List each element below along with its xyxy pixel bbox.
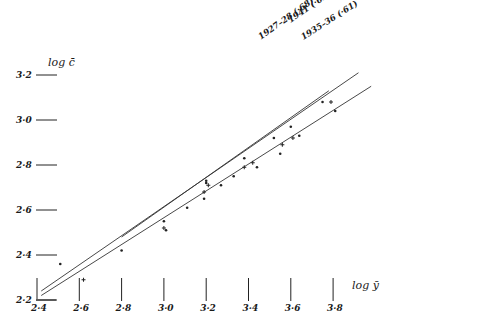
data-point — [205, 182, 208, 185]
data-point — [232, 175, 235, 178]
data-point — [163, 220, 166, 223]
data-point — [120, 249, 123, 252]
x-tick-label: 3·4 — [243, 303, 259, 313]
data-point — [279, 152, 282, 155]
data-point — [256, 166, 259, 169]
data-point — [334, 110, 337, 113]
data-point — [321, 101, 324, 104]
y-axis: 2·22·42·62·83·03·2 — [15, 70, 57, 305]
data-point — [273, 137, 276, 140]
y-tick-label: 2·8 — [15, 160, 32, 170]
x-tick-label: 3·6 — [285, 303, 301, 313]
y-tick-label: 2·2 — [15, 295, 32, 305]
data-point-cross — [82, 278, 86, 282]
y-tick-label: 3·2 — [16, 70, 32, 80]
data-point — [165, 229, 168, 232]
data-point — [220, 184, 223, 187]
y-tick-label: 3·0 — [16, 115, 32, 125]
y-axis-title: log c̄ — [48, 56, 75, 69]
y-tick-label: 2·6 — [15, 205, 32, 215]
x-axis: 2·42·62·83·03·23·43·63·8 — [30, 278, 343, 313]
data-point — [243, 157, 246, 160]
data-point — [298, 134, 301, 137]
data-point — [59, 263, 62, 266]
data-point-cross — [329, 100, 333, 104]
data-point — [203, 197, 206, 200]
x-tick-label: 3·2 — [200, 303, 216, 313]
x-tick-label: 3·0 — [158, 303, 174, 313]
x-tick-label: 3·8 — [327, 303, 343, 313]
data-point-cross — [251, 161, 255, 165]
data-point — [186, 206, 189, 209]
data-points — [59, 100, 337, 282]
log-log-chart: 2·22·42·62·83·03·2 2·42·62·83·03·23·43·6… — [0, 0, 483, 323]
x-axis-title: log ȳ — [352, 279, 380, 292]
y-tick-label: 2·4 — [15, 250, 32, 260]
data-point — [290, 125, 293, 128]
data-point — [205, 179, 208, 182]
x-tick-label: 2·4 — [30, 303, 47, 313]
x-tick-label: 2·6 — [72, 303, 89, 313]
series-labels: 1927–28 (·68)1941 (·65)1935–36 (·61) — [256, 0, 359, 42]
fit-line — [41, 86, 371, 295]
x-tick-label: 2·8 — [115, 303, 132, 313]
fit-line — [41, 73, 358, 291]
